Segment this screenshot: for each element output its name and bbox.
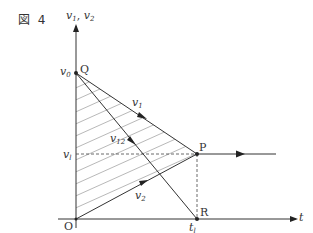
label-vl-sub: l — [69, 154, 71, 162]
label-v1-sub: 1 — [138, 102, 142, 110]
y-axis-label-sub2: 2 — [90, 15, 94, 23]
point-r — [195, 217, 199, 221]
figure-label: 図 4 — [18, 10, 47, 27]
label-v12: v12 — [110, 133, 125, 146]
label-vl: vl — [63, 149, 71, 162]
point-q — [74, 71, 78, 75]
label-v2: v2 — [135, 190, 146, 203]
label-tl: tl — [189, 222, 196, 233]
vl-arrow-icon — [236, 151, 245, 158]
point-o — [75, 218, 78, 221]
label-v1: v1 — [132, 97, 143, 110]
label-v12-sub: 12 — [116, 138, 125, 146]
y-axis-label: v1, v2 — [66, 10, 94, 23]
v12-arrow-icon — [127, 136, 136, 145]
velocity-time-diagram — [0, 0, 313, 233]
label-origin: O — [64, 221, 73, 232]
label-v2-sub: 2 — [141, 195, 145, 203]
label-v0-sub: 0 — [66, 71, 70, 79]
label-v0: v0 — [60, 66, 71, 79]
label-tl-sub: l — [193, 227, 195, 233]
y-axis-label-separator: , — [77, 9, 81, 22]
v2-arrow-icon — [139, 180, 148, 186]
label-r: R — [200, 207, 208, 218]
v1-arrow-icon — [137, 112, 147, 119]
label-p: P — [199, 142, 206, 153]
x-axis-label: t — [299, 212, 303, 223]
v1-line — [76, 73, 197, 154]
label-q: Q — [80, 64, 89, 75]
